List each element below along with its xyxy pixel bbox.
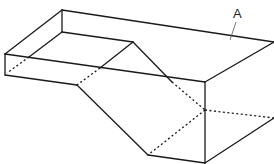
label-a: A [233, 6, 242, 21]
hidden-edges [7, 57, 274, 155]
block-diagram [0, 0, 274, 164]
solid-edges [5, 10, 274, 163]
label-a-leader [230, 22, 236, 40]
